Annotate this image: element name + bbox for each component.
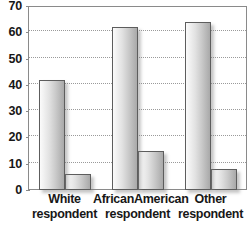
y-tick-label: 10 bbox=[8, 157, 22, 171]
y-tick-mark bbox=[26, 190, 30, 191]
bar-group bbox=[101, 6, 174, 190]
x-group-label-line: Other bbox=[166, 192, 252, 207]
y-tick-label: 70 bbox=[8, 0, 22, 13]
x-axis: WhiterespondentAfricanAmericanrespondent… bbox=[28, 192, 247, 228]
bar bbox=[185, 22, 211, 190]
bars-layer bbox=[28, 6, 247, 190]
bar-chart: 010203040506070 WhiterespondentAfricanAm… bbox=[0, 0, 252, 228]
bar bbox=[39, 80, 65, 190]
bar bbox=[112, 27, 138, 190]
y-axis: 010203040506070 bbox=[0, 0, 26, 196]
bar bbox=[138, 151, 164, 190]
y-tick-label: 30 bbox=[8, 104, 22, 118]
bar bbox=[65, 174, 91, 190]
y-tick-label: 40 bbox=[8, 78, 22, 92]
x-group-label: Otherrespondent bbox=[166, 192, 252, 222]
y-tick-label: 60 bbox=[8, 25, 22, 39]
y-tick-label: 20 bbox=[8, 130, 22, 144]
bar-group bbox=[174, 6, 247, 190]
x-group-label-line: respondent bbox=[166, 207, 252, 222]
bar bbox=[211, 169, 237, 190]
bar-group bbox=[28, 6, 101, 190]
y-tick-label: 50 bbox=[8, 52, 22, 66]
